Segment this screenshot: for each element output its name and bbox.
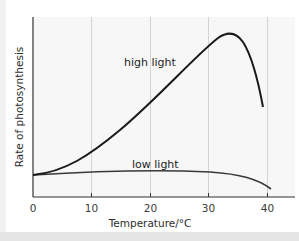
x-tick-labels: 0 10 20 30 40 [30, 202, 275, 214]
x-axis-title: Temperature/°C [108, 217, 192, 229]
low-light-label: low light [132, 158, 179, 171]
y-axis-title: Rate of photosynthesis [13, 47, 25, 168]
tick-label-30: 30 [202, 202, 215, 214]
tick-label-10: 10 [85, 202, 98, 214]
tick-label-20: 20 [144, 202, 157, 214]
high-light-label: high light [124, 56, 177, 69]
tick-label-40: 40 [261, 202, 274, 214]
tick-label-0: 0 [30, 202, 37, 214]
photosynthesis-chart: 0 10 20 30 40 Temperature/°C Rate of pho… [0, 0, 299, 241]
